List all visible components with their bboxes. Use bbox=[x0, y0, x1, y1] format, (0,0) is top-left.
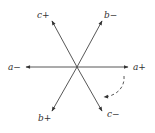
phasor-diagram: a+ a− b− b+ c+ c− bbox=[0, 0, 155, 133]
label-b-plus: b+ bbox=[38, 113, 51, 123]
axis-c-plus bbox=[52, 21, 77, 67]
axis-b-plus bbox=[52, 67, 77, 111]
axis-lines bbox=[26, 21, 128, 111]
rotation-arrow-dashed bbox=[104, 76, 124, 97]
label-a-plus: a+ bbox=[133, 62, 146, 72]
label-c-minus: c− bbox=[107, 109, 120, 119]
axis-b-minus bbox=[77, 21, 102, 67]
label-a-minus: a− bbox=[8, 62, 21, 72]
label-c-plus: c+ bbox=[37, 10, 50, 20]
axis-c-minus bbox=[77, 67, 102, 111]
label-b-minus: b− bbox=[104, 10, 117, 20]
